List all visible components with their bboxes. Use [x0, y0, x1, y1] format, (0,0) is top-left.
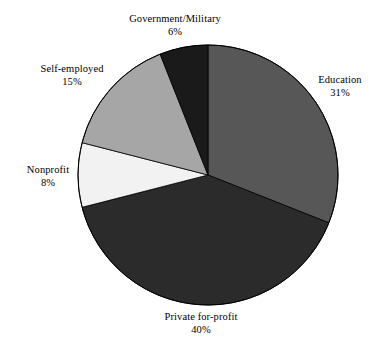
- slice-label-self-employed: Self-employed 15%: [14, 62, 130, 88]
- slice-label-private-for-profit-value: 40%: [128, 323, 274, 336]
- slice-label-private-for-profit-name: Private for-profit: [128, 310, 274, 323]
- slice-label-nonprofit: Nonprofit 8%: [2, 163, 94, 189]
- slice-label-education-name: Education: [292, 73, 388, 86]
- slice-label-self-employed-name: Self-employed: [14, 62, 130, 75]
- slice-label-private-for-profit: Private for-profit 40%: [128, 310, 274, 336]
- slice-label-government-military-name: Government/Military: [104, 12, 246, 25]
- slice-label-education: Education 31%: [292, 73, 388, 99]
- slice-label-government-military-value: 6%: [104, 25, 246, 38]
- slice-label-education-value: 31%: [292, 86, 388, 99]
- slice-label-nonprofit-value: 8%: [2, 176, 94, 189]
- slice-label-government-military: Government/Military 6%: [104, 12, 246, 38]
- pie-chart-figure: Government/Military 6% Education 31% Sel…: [0, 0, 391, 344]
- slice-label-self-employed-value: 15%: [14, 75, 130, 88]
- slice-label-nonprofit-name: Nonprofit: [2, 163, 94, 176]
